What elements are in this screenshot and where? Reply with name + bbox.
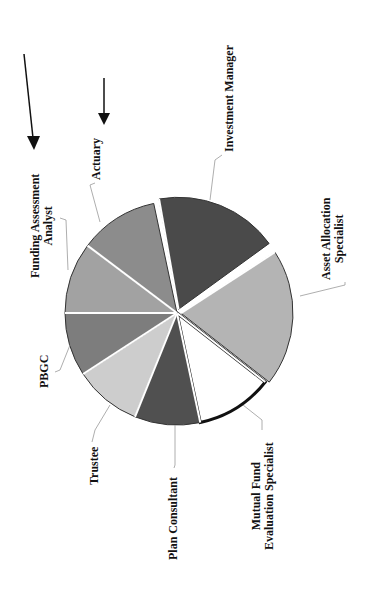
label-text: Actuary — [90, 138, 103, 180]
label-funding-assessment-analyst: Funding Assessment Analyst — [29, 174, 55, 278]
pie-chart — [0, 0, 369, 602]
label-text: Plan Consultant — [167, 477, 180, 560]
arrow-icon-actuary — [98, 78, 110, 125]
label-trustee: Trustee — [88, 447, 101, 485]
label-actuary: Actuary — [90, 138, 103, 180]
label-text: Specialist — [333, 198, 346, 280]
label-pbgc: PBGC — [38, 355, 51, 388]
arrow-icon-funding — [24, 54, 40, 150]
label-asset-allocation-specialist: Asset Allocation Specialist — [320, 198, 346, 280]
label-text: Trustee — [88, 447, 101, 485]
label-text: Evaluation Specialist — [263, 442, 276, 550]
label-text: Analyst — [42, 174, 55, 278]
label-mutual-fund-evaluation-specialist: Mutual Fund Evaluation Specialist — [250, 442, 276, 550]
label-text: Investment Manager — [223, 45, 236, 152]
label-plan-consultant: Plan Consultant — [167, 477, 180, 560]
label-text: PBGC — [38, 355, 51, 388]
pie-slices — [65, 197, 293, 425]
label-investment-manager: Investment Manager — [223, 45, 236, 152]
